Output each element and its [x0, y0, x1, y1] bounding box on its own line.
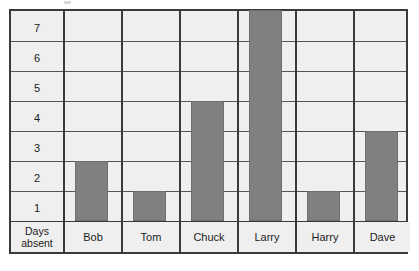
gridline-h-6	[11, 71, 406, 72]
y-axis-title-line2: absent	[21, 237, 53, 249]
y-tick-1: 1	[11, 203, 63, 214]
scan-artifact	[64, 1, 71, 4]
y-axis-title-line1: Days	[21, 225, 53, 237]
x-label-larry: Larry	[239, 222, 295, 252]
gridline-v-tom	[179, 11, 181, 252]
gridline-h-7	[11, 41, 406, 42]
gridline-v-larry	[295, 11, 297, 252]
x-label-tom: Tom	[123, 222, 179, 252]
y-tick-5: 5	[11, 83, 63, 94]
y-axis-title: Days absent	[11, 222, 63, 252]
bar-bob	[75, 161, 108, 221]
x-label-bob: Bob	[65, 222, 121, 252]
bar-tom	[133, 191, 166, 221]
chart-grid: 7 6 5 4 3 2 1 Days absent Bob Tom Chuck …	[11, 11, 406, 252]
y-tick-6: 6	[11, 53, 63, 64]
bar-chuck	[191, 101, 224, 221]
bar-chart: 7 6 5 4 3 2 1 Days absent Bob Tom Chuck …	[9, 9, 408, 254]
x-label-harry: Harry	[297, 222, 353, 252]
gridline-v-bob	[121, 11, 123, 252]
y-tick-2: 2	[11, 173, 63, 184]
bar-dave	[365, 131, 398, 221]
y-tick-3: 3	[11, 143, 63, 154]
gridline-v-chuck	[237, 11, 239, 252]
bar-harry	[307, 191, 340, 221]
bar-larry	[249, 10, 282, 221]
gridline-v-axis	[63, 11, 65, 252]
y-tick-4: 4	[11, 113, 63, 124]
x-label-chuck: Chuck	[181, 222, 237, 252]
y-tick-7: 7	[11, 23, 63, 34]
x-label-dave: Dave	[355, 222, 410, 252]
gridline-v-harry	[353, 11, 355, 252]
